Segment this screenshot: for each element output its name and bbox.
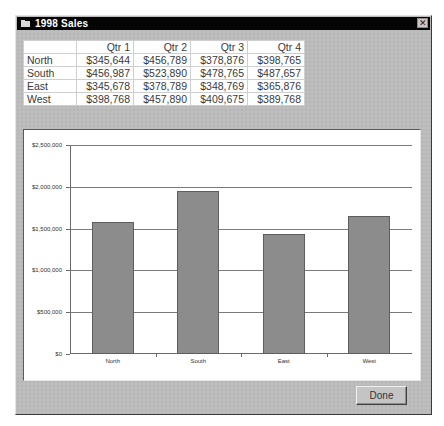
- grid-cell[interactable]: $456,789: [134, 54, 191, 67]
- grid-cell[interactable]: $456,987: [77, 67, 134, 80]
- sales-dialog-window: 1998 Sales ✕ Qtr 1 Qtr 2 Qtr 3 Qtr 4 Nor…: [15, 15, 432, 415]
- row-label-north: North: [24, 54, 77, 67]
- y-tick: [66, 187, 70, 188]
- grid-cell[interactable]: $398,768: [77, 93, 134, 106]
- grid-cell[interactable]: $487,657: [248, 67, 305, 80]
- grid-cell[interactable]: $389,768: [248, 93, 305, 106]
- grid-cell[interactable]: $398,765: [248, 54, 305, 67]
- bar-north: [92, 222, 134, 354]
- gridline: [70, 187, 412, 188]
- table-row: South $456,987 $523,890 $478,765 $487,65…: [24, 67, 305, 80]
- y-tick: [66, 270, 70, 271]
- y-tick-label: $500,000: [37, 309, 62, 315]
- x-tick-label: West: [339, 358, 399, 364]
- grid-header-row: Qtr 1 Qtr 2 Qtr 3 Qtr 4: [24, 41, 305, 54]
- column-header-qtr1: Qtr 1: [77, 41, 134, 54]
- column-header-qtr3: Qtr 3: [191, 41, 248, 54]
- y-tick: [66, 229, 70, 230]
- y-axis: [70, 145, 71, 354]
- grid-corner-cell: [24, 41, 77, 54]
- grid-cell[interactable]: $345,644: [77, 54, 134, 67]
- grid-cell[interactable]: $478,765: [191, 67, 248, 80]
- table-row: East $345,678 $378,789 $348,769 $365,876: [24, 80, 305, 93]
- bar-west: [348, 216, 390, 354]
- grid-cell[interactable]: $378,876: [191, 54, 248, 67]
- sales-chart-panel: $0$500,000$1,000,000$1,500,000$2,000,000…: [23, 129, 421, 381]
- done-button[interactable]: Done: [356, 386, 407, 405]
- x-tick-label: North: [83, 358, 143, 364]
- y-tick-label: $2,000,000: [32, 184, 62, 190]
- y-tick-label: $1,000,000: [32, 267, 62, 273]
- row-label-east: East: [24, 80, 77, 93]
- y-tick-label: $0: [55, 351, 62, 357]
- grid-cell[interactable]: $348,769: [191, 80, 248, 93]
- row-label-west: West: [24, 93, 77, 106]
- window-title: 1998 Sales: [35, 18, 88, 29]
- x-tick: [241, 354, 242, 357]
- grid-cell[interactable]: $523,890: [134, 67, 191, 80]
- grid-cell[interactable]: $365,876: [248, 80, 305, 93]
- window-app-icon[interactable]: [21, 20, 31, 28]
- y-tick-label: $1,500,000: [32, 226, 62, 232]
- grid-cell[interactable]: $409,675: [191, 93, 248, 106]
- close-button[interactable]: ✕: [417, 18, 428, 28]
- row-label-south: South: [24, 67, 77, 80]
- x-tick: [327, 354, 328, 357]
- sales-data-grid[interactable]: Qtr 1 Qtr 2 Qtr 3 Qtr 4 North $345,644 $…: [23, 40, 305, 106]
- x-tick-label: East: [254, 358, 314, 364]
- gridline: [70, 145, 412, 146]
- chart-plot-area: $0$500,000$1,000,000$1,500,000$2,000,000…: [70, 145, 412, 354]
- y-tick-label: $2,500,000: [32, 142, 62, 148]
- column-header-qtr4: Qtr 4: [248, 41, 305, 54]
- title-bar[interactable]: 1998 Sales ✕: [17, 17, 430, 30]
- y-tick: [66, 145, 70, 146]
- grid-cell[interactable]: $457,890: [134, 93, 191, 106]
- bar-south: [177, 191, 219, 354]
- column-header-qtr2: Qtr 2: [134, 41, 191, 54]
- y-tick: [66, 354, 70, 355]
- x-tick-label: South: [168, 358, 228, 364]
- table-row: North $345,644 $456,789 $378,876 $398,76…: [24, 54, 305, 67]
- x-tick: [156, 354, 157, 357]
- grid-cell[interactable]: $378,789: [134, 80, 191, 93]
- bar-east: [263, 234, 305, 354]
- grid-cell[interactable]: $345,678: [77, 80, 134, 93]
- table-row: West $398,768 $457,890 $409,675 $389,768: [24, 93, 305, 106]
- y-tick: [66, 312, 70, 313]
